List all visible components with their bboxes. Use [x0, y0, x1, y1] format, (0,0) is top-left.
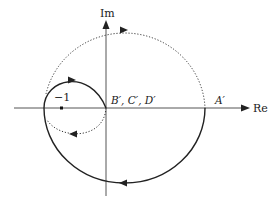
a-prime-label: A′ [214, 94, 226, 106]
real-axis-arrow-icon [241, 105, 250, 112]
real-axis-label: Re [253, 102, 268, 115]
minus-one-point [60, 107, 63, 110]
nyquist-diagram: Re Im −1 B′, C′, D′ A′ [0, 0, 273, 206]
inner-dotted-loop [47, 108, 106, 134]
imag-axis-label: Im [100, 7, 115, 20]
upper-loop-arrow-icon [68, 77, 76, 84]
origin-label: B′, C′, D′ [110, 94, 156, 106]
imag-axis-arrow-icon [103, 20, 110, 29]
outer-solid-path [44, 108, 205, 183]
bottom-direction-arrow-icon [119, 180, 127, 187]
minus-one-label: −1 [54, 91, 70, 104]
lower-loop-arrow-icon [69, 131, 77, 138]
top-direction-arrow-icon [120, 27, 128, 34]
